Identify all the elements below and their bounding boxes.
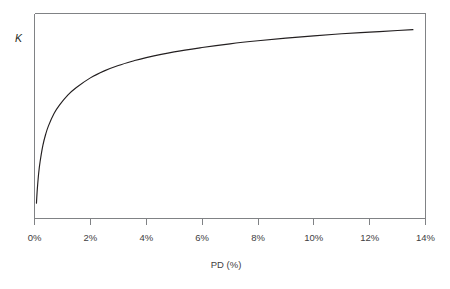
x-tick-label-3: 6%: [195, 232, 209, 243]
x-tick-label-4: 8%: [251, 232, 265, 243]
chart-container: 0% 2% 4% 6% 8% 10% 12% 14% K PD (%): [0, 0, 450, 289]
x-tick-label-6: 12%: [360, 232, 380, 243]
chart-canvas: 0% 2% 4% 6% 8% 10% 12% 14% K PD (%): [0, 0, 450, 289]
chart-background: [0, 0, 450, 289]
x-tick-label-5: 10%: [304, 232, 324, 243]
x-tick-label-2: 4%: [139, 232, 153, 243]
y-axis-title: K: [15, 32, 23, 44]
x-tick-label-0: 0%: [28, 232, 42, 243]
x-axis-title: PD (%): [211, 259, 242, 270]
x-tick-label-1: 2%: [84, 232, 98, 243]
x-tick-label-7: 14%: [416, 232, 436, 243]
